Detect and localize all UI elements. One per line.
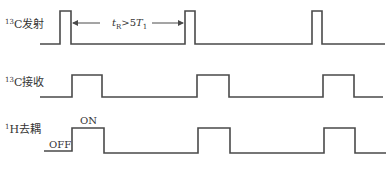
- waveform-13c-excitation: [40, 11, 385, 44]
- pulse-sequence-diagram: [0, 0, 389, 170]
- waveform-1h-decoupling: [44, 128, 386, 153]
- waveform-13c-acquisition: [40, 75, 383, 97]
